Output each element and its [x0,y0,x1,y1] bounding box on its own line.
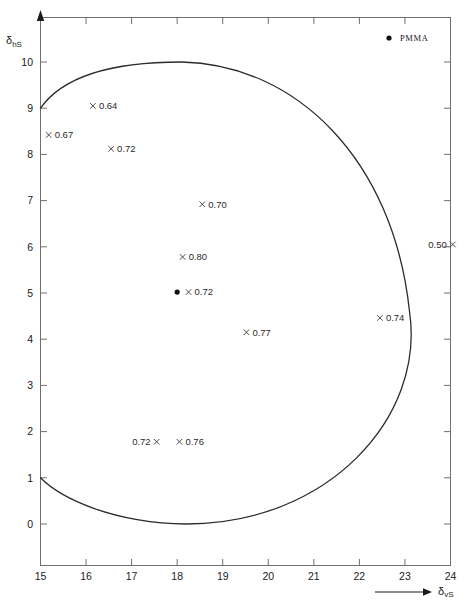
data-point: 0.72 [108,143,135,154]
data-point-group: 0.640.670.720.700.800.720.770.740.500.72… [46,100,456,447]
y-axis-tick-labels: 012345678910 [21,56,33,530]
legend-marker-icon [386,35,391,40]
y-tick-label: 4 [27,333,33,345]
x-tick-label: 15 [35,570,47,582]
solubility-envelope-curve [41,62,412,524]
x-tick-label: 22 [354,570,366,582]
scatter-plot: 15161718192021222324 012345678910 0.640.… [0,0,472,608]
data-point: 0.67 [46,129,73,140]
x-tick-label: 24 [445,570,457,582]
data-point: 0.77 [244,327,271,338]
data-point: 0.72 [186,286,213,297]
data-point-label: 0.70 [208,199,227,210]
special-point-group [175,289,180,294]
data-point-label: 0.50 [428,239,447,250]
data-point: 0.72 [132,436,159,447]
data-point: 0.70 [199,199,226,210]
y-axis-title: δhS [6,34,22,49]
x-axis-tick-labels: 15161718192021222324 [35,570,457,582]
y-tick-label: 7 [27,194,33,206]
data-point-label: 0.80 [189,251,208,262]
y-tick-label: 0 [27,518,33,530]
y-tick-label: 9 [27,102,33,114]
data-point-label: 0.72 [117,143,136,154]
data-point: 0.76 [177,436,204,447]
legend-label: PMMA [400,33,429,43]
data-point-label: 0.67 [55,129,73,140]
y-tick-label: 2 [27,425,33,437]
figure-container: 15161718192021222324 012345678910 0.640.… [0,0,472,608]
y-tick-label: 6 [27,241,33,253]
y-tick-label: 10 [21,56,33,68]
y-axis-arrow-icon [37,10,44,21]
x-tick-label: 23 [399,570,411,582]
data-point-label: 0.76 [185,436,204,447]
data-point: 0.80 [180,251,207,262]
x-tick-label: 20 [262,570,274,582]
data-point-label: 0.77 [252,327,271,338]
y-tick-label: 8 [27,148,33,160]
data-point: 0.50 [428,239,455,250]
data-point-label: 0.72 [132,436,151,447]
x-axis-title: δvS [438,585,453,599]
x-tick-label: 17 [126,570,138,582]
data-point-label: 0.64 [99,100,118,111]
data-point: 0.74 [377,312,404,323]
data-point: 0.64 [90,100,117,111]
x-tick-label: 16 [80,570,92,582]
y-axis-ticks-right [444,62,451,524]
x-axis-ticks-bottom [41,559,451,566]
x-axis-arrow-icon [423,588,432,596]
data-point-label: 0.72 [195,286,214,297]
special-data-point [175,289,180,294]
y-axis-ticks-left [41,62,48,524]
y-tick-label: 5 [27,287,33,299]
y-tick-label: 3 [27,379,33,391]
y-tick-label: 1 [27,472,33,484]
x-tick-label: 19 [217,570,229,582]
x-tick-label: 21 [308,570,320,582]
x-tick-label: 18 [171,570,183,582]
data-point-label: 0.74 [386,312,405,323]
x-axis-ticks-top [41,18,451,25]
